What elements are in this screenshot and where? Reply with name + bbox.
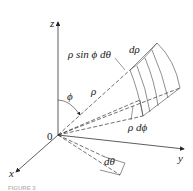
- y-label: y: [177, 152, 183, 164]
- d-rho-label: dρ: [129, 43, 140, 55]
- figure-caption: FIGURE 3: [8, 185, 36, 191]
- dashed-rays: [58, 70, 180, 175]
- rho-dphi-label: ρ dϕ: [127, 121, 148, 133]
- phi-arc: [58, 100, 80, 115]
- spherical-volume-element-diagram: z y x 0 ρ sin ϕ dθ dρ ρ ϕ ρ dϕ dθ FIGURE…: [0, 0, 193, 191]
- leader-line: [131, 106, 133, 120]
- dtheta-label: dθ: [104, 155, 116, 167]
- x-label: x: [8, 167, 14, 179]
- leader-line: [115, 58, 125, 70]
- rho-sin-phi-dtheta-label: ρ sin ϕ dθ: [67, 48, 112, 60]
- rho-label: ρ: [90, 85, 96, 97]
- phi-label: ϕ: [67, 90, 73, 102]
- y-axis: [58, 135, 184, 149]
- z-label: z: [49, 17, 55, 29]
- origin-label: 0: [47, 130, 53, 142]
